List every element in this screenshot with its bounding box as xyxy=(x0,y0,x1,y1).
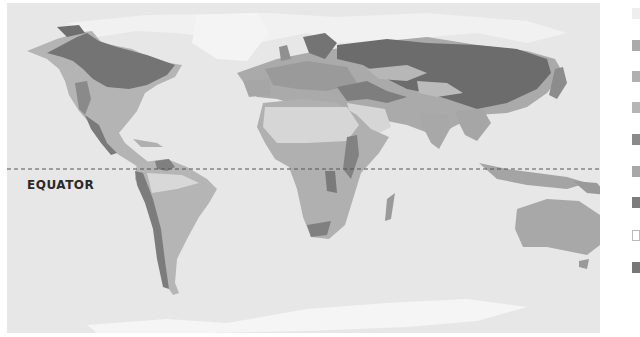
se-asia xyxy=(455,109,491,141)
australia xyxy=(515,199,600,255)
iberia xyxy=(243,79,271,97)
legend-swatch xyxy=(632,197,640,208)
world-map: EQUATOR xyxy=(7,3,600,333)
caribbean xyxy=(133,139,163,147)
uk xyxy=(279,45,291,61)
indonesia xyxy=(479,163,587,189)
tasmania xyxy=(579,259,589,269)
legend-swatch xyxy=(632,8,640,19)
sahara xyxy=(263,107,359,143)
madagascar xyxy=(385,193,395,221)
legend-swatch xyxy=(632,166,640,177)
world-map-graphic xyxy=(7,3,600,333)
equator-label: EQUATOR xyxy=(27,178,94,192)
legend-swatch xyxy=(632,102,640,113)
legend-swatch xyxy=(632,40,640,51)
legend xyxy=(628,0,639,337)
greenland xyxy=(192,13,269,61)
legend-swatch xyxy=(632,134,640,145)
legend-swatch xyxy=(632,262,640,273)
antarctica xyxy=(87,299,527,333)
legend-swatch xyxy=(632,71,640,82)
new-guinea xyxy=(573,181,600,195)
legend-swatch xyxy=(632,230,640,241)
